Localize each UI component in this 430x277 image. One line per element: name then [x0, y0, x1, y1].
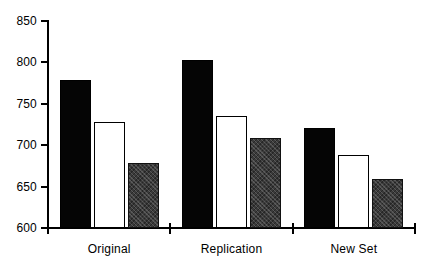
bar-replication-series-1	[182, 60, 213, 228]
x-group-label-new-set: New Set	[293, 243, 415, 256]
y-tick-label: 800	[1, 56, 37, 68]
y-tick-label: 700	[1, 139, 37, 151]
bar-new-set-series-3	[372, 179, 403, 228]
bar-new-set-series-1	[304, 128, 335, 228]
bar-chart: 600650700750800850 OriginalReplicationNe…	[0, 0, 430, 277]
y-tick-mark	[41, 103, 48, 105]
y-tick-label: 850	[1, 15, 37, 27]
y-tick-label: 750	[1, 98, 37, 110]
bar-original-series-2	[94, 122, 125, 228]
bar-original-series-3	[128, 163, 159, 228]
x-group-label-original: Original	[48, 243, 170, 256]
bar-replication-series-3	[250, 138, 281, 228]
bar-replication-series-2	[216, 116, 247, 228]
plot-area	[48, 21, 415, 228]
y-tick-mark	[41, 20, 48, 22]
y-tick-mark	[41, 186, 48, 188]
y-tick-label: 600	[1, 222, 37, 234]
y-tick-mark	[41, 61, 48, 63]
x-group-label-replication: Replication	[170, 243, 292, 256]
y-tick-mark	[41, 144, 48, 146]
y-tick-label: 650	[1, 181, 37, 193]
bar-original-series-1	[60, 80, 91, 228]
bar-new-set-series-2	[338, 155, 369, 228]
